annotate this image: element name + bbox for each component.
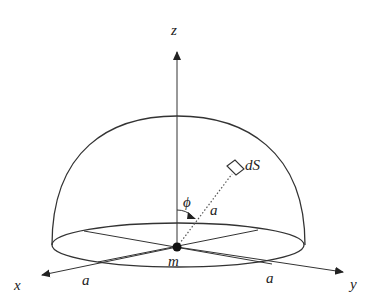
- mass-label: m: [168, 253, 179, 269]
- radius-x-label: a: [82, 272, 90, 288]
- radius-y-label: a: [266, 270, 274, 286]
- x-axis-label: x: [13, 277, 21, 293]
- surface-element-label: dS: [245, 157, 261, 173]
- radius-slant-label: a: [210, 202, 218, 218]
- x-axis: [42, 247, 177, 275]
- surface-element-icon: [227, 160, 244, 175]
- angle-arrowhead-icon: [187, 212, 196, 219]
- hemisphere-dome: [52, 116, 305, 245]
- radius-line: [177, 174, 232, 247]
- z-axis-label: z: [170, 22, 177, 38]
- mass-point: [173, 243, 182, 252]
- y-axis-label: y: [348, 276, 357, 292]
- angle-label: ϕ: [183, 194, 191, 210]
- hemisphere-diagram: z x y m ϕ a a a dS: [0, 0, 376, 307]
- y-axis: [177, 247, 343, 272]
